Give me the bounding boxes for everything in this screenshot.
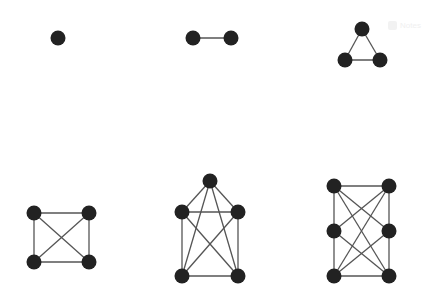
vertex-r2	[382, 224, 397, 239]
vertex-bl	[27, 255, 42, 270]
vertex-l3	[327, 269, 342, 284]
vertex-b	[338, 53, 353, 68]
vertex-bl	[175, 269, 190, 284]
vertex-tl	[27, 206, 42, 221]
vertex-a	[51, 31, 66, 46]
watermark: Notes	[388, 21, 421, 30]
graph-g6	[327, 179, 397, 284]
graph-g2	[186, 31, 239, 46]
vertex-a	[355, 22, 370, 37]
vertex-b	[224, 31, 239, 46]
vertex-r1	[382, 179, 397, 194]
vertex-br	[82, 255, 97, 270]
vertex-a	[186, 31, 201, 46]
watermark-label: Notes	[400, 21, 421, 30]
vertex-t	[203, 174, 218, 189]
vertex-l2	[327, 224, 342, 239]
play-icon	[388, 21, 397, 30]
vertex-c	[373, 53, 388, 68]
vertex-l1	[327, 179, 342, 194]
vertex-l	[175, 205, 190, 220]
graph-g1	[51, 31, 66, 46]
graph-g3	[338, 22, 388, 68]
vertex-tr	[82, 206, 97, 221]
graph-g4	[27, 206, 97, 270]
graph-diagram	[0, 0, 442, 294]
graph-g5	[175, 174, 246, 284]
vertex-r	[231, 205, 246, 220]
vertex-r3	[382, 269, 397, 284]
vertex-br	[231, 269, 246, 284]
